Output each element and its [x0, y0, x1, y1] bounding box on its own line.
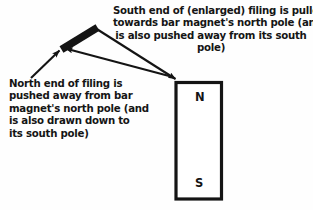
magnet-south-pole-label: S [195, 176, 203, 190]
north-end-caption: North end of filing is pushed away from … [9, 78, 159, 140]
south-end-caption: South end of (enlarged) filing is pulled… [113, 5, 309, 55]
north-end-arrow-from-caption [31, 51, 60, 79]
iron-filing [62, 28, 98, 50]
diagram-canvas: South end of (enlarged) filing is pulled… [0, 0, 313, 210]
magnet-north-pole-label: N [195, 90, 205, 104]
